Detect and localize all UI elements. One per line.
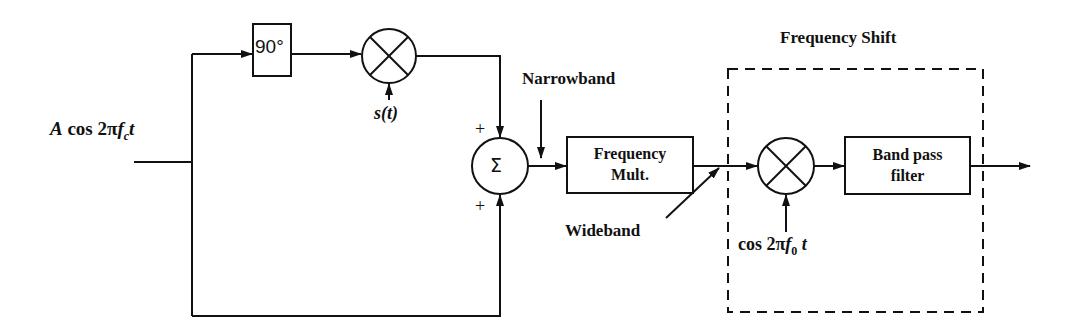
cos-input-label: cos 2πf0 t: [738, 234, 807, 259]
sigma-icon: Σ: [490, 154, 502, 176]
frequency-multiplier-text: Frequency Mult.: [567, 143, 693, 185]
band-pass-filter-text: Band pass filter: [845, 144, 970, 186]
sum-plus-top: +: [475, 119, 485, 140]
s-t-label: s(t): [374, 103, 398, 124]
frequency-shift-region: [728, 69, 983, 312]
narrowband-label: Narrowband: [522, 69, 615, 89]
sum-plus-bottom: +: [475, 196, 485, 217]
wideband-label: Wideband: [565, 221, 640, 241]
bottom-path-line: [192, 195, 500, 316]
frequency-shift-title: Frequency Shift: [780, 28, 896, 48]
phase-shift-label: 90°: [255, 36, 284, 58]
input-signal-label: A cos 2πfct: [50, 118, 134, 144]
mixer1-to-sum-line: [416, 56, 500, 137]
